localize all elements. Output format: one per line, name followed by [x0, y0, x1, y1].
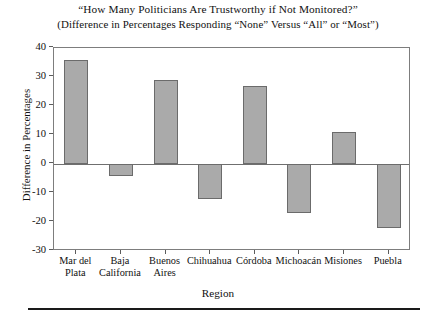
- x-tick-mark: [165, 250, 166, 254]
- y-tick-label: 10: [35, 126, 46, 142]
- y-axis-title: Difference in Percentages: [20, 44, 32, 247]
- bar: [64, 60, 88, 164]
- y-tick-label: -20: [32, 213, 46, 229]
- x-tick-label: Puebla: [357, 255, 418, 267]
- x-tick-mark: [343, 250, 344, 254]
- y-tick-label: -10: [32, 184, 46, 200]
- chart-title-line-2: (Difference in Percentages Responding “N…: [0, 17, 436, 32]
- chart-title-line-1: “How Many Politicians Are Trustworthy if…: [0, 2, 436, 17]
- x-tick-mark: [209, 250, 210, 254]
- y-tick-label: -30: [32, 242, 46, 258]
- y-tick-label: 20: [35, 97, 46, 113]
- y-tick-label: 30: [35, 68, 46, 84]
- x-axis-title: Region: [0, 287, 436, 299]
- x-tick-mark: [388, 250, 389, 254]
- bar: [332, 132, 356, 164]
- plot-area: [53, 47, 410, 250]
- footer-rule: [28, 308, 420, 310]
- bar: [243, 86, 267, 164]
- y-tick-label: 0: [41, 155, 46, 171]
- x-tick-mark: [298, 250, 299, 254]
- x-tick-mark: [120, 250, 121, 254]
- x-tick-label-line: Puebla: [357, 255, 418, 267]
- x-tick-mark: [75, 250, 76, 254]
- x-tick-label-line: Aires: [134, 267, 195, 279]
- x-axis-labels: Mar delPlataBajaCaliforniaBuenosAiresChi…: [53, 255, 410, 289]
- chart-title-block: “How Many Politicians Are Trustworthy if…: [0, 2, 436, 31]
- bar: [198, 164, 222, 199]
- x-tick-mark: [254, 250, 255, 254]
- bar: [109, 164, 133, 176]
- y-tick-label: 40: [35, 39, 46, 55]
- bars-layer: [54, 48, 409, 249]
- bar: [287, 164, 311, 213]
- bar: [377, 164, 401, 228]
- bar: [154, 80, 178, 164]
